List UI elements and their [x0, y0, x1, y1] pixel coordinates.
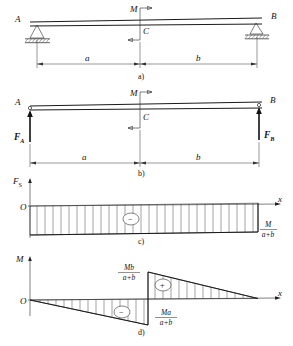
- moment-left-numerator: Ma: [160, 308, 171, 317]
- dimension-label-a-a: a: [85, 53, 90, 63]
- moment-negative-sign-badge: −: [114, 306, 130, 318]
- shear-value-denominator: a+b: [262, 230, 275, 239]
- figure-caption-a: a): [138, 72, 145, 81]
- dimension-lines-b: [30, 130, 259, 167]
- moment-label-b: M: [129, 88, 138, 98]
- beam-b: [30, 102, 262, 110]
- moment-right-denominator: a+b: [123, 273, 136, 282]
- moment-left-denominator: a+b: [160, 318, 173, 327]
- dimension-label-b-a: b: [196, 53, 201, 63]
- moment-peak-right-label: Mb a+b: [118, 263, 140, 282]
- shear-x-axis-label: x: [277, 194, 282, 204]
- moment-label-a: M: [129, 4, 138, 14]
- figure-caption-b: b): [138, 169, 145, 178]
- point-label-A-a: A: [14, 14, 21, 24]
- moment-positive-sign-label: +: [160, 281, 165, 290]
- figure-caption-d: d): [138, 328, 145, 337]
- shear-region-negative: [30, 203, 258, 235]
- point-label-B-a: B: [271, 11, 277, 21]
- beam-diagram-figure: A B M C a b a): [0, 0, 293, 346]
- roller-support-b: [245, 23, 269, 39]
- moment-x-axis-label: x: [277, 288, 282, 298]
- figure-d-moment-diagram: + − M O x Mb a+b Ma a+b d): [15, 254, 282, 337]
- beam-a: [30, 18, 262, 26]
- figure-c-shear-diagram: − FS O x M a+b c): [12, 176, 282, 246]
- dimension-label-a-b: a: [82, 152, 87, 162]
- dimension-label-b-b: b: [196, 152, 201, 162]
- moment-negative-sign-label: −: [119, 308, 124, 317]
- reaction-force-b: [256, 107, 262, 140]
- point-label-C-b: C: [143, 112, 150, 122]
- figure-caption-c: c): [138, 237, 145, 246]
- point-label-B-b: B: [270, 95, 276, 105]
- figure-a-group: A B M C a b a): [14, 4, 277, 81]
- moment-right-numerator: Mb: [123, 263, 134, 272]
- reaction-label-fa: FA: [13, 132, 24, 144]
- moment-origin-label: O: [20, 296, 27, 306]
- shear-value-label: M a+b: [260, 220, 277, 239]
- moment-peak-left-label: Ma a+b: [155, 308, 177, 327]
- moment-axis-label: M: [15, 254, 24, 264]
- figure-b-group: A B M C FA FB: [13, 88, 276, 178]
- shear-origin-label: O: [20, 202, 27, 212]
- hinge-marker-a-b: [28, 106, 31, 109]
- moment-positive-sign-badge: +: [155, 279, 171, 291]
- shear-value-numerator: M: [264, 220, 272, 229]
- shear-sign-label: −: [128, 215, 133, 224]
- shear-axis-label: FS: [12, 176, 23, 188]
- shear-sign-badge: −: [123, 213, 139, 225]
- point-label-A-b: A: [14, 97, 21, 107]
- reaction-label-fb: FB: [263, 130, 274, 142]
- reaction-force-a: [27, 110, 33, 142]
- dimension-lines-a: [37, 37, 257, 68]
- hinge-marker-b-b: [257, 103, 260, 106]
- pin-support-a: [25, 25, 50, 43]
- point-label-C-a: C: [143, 26, 150, 36]
